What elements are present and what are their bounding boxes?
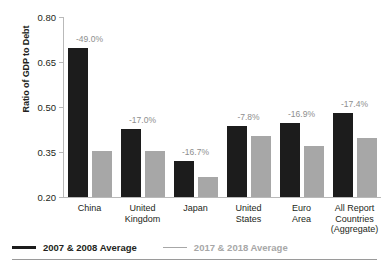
x-axis-line xyxy=(63,197,381,198)
legend-item-curr: 2017 & 2018 Average xyxy=(163,242,288,253)
bar-prev xyxy=(227,126,247,197)
bar-group: -17.4%All ReportCountries(Aggregate) xyxy=(328,17,381,197)
legend-label-curr: 2017 & 2018 Average xyxy=(194,242,288,253)
x-axis-category-label: All ReportCountries(Aggregate) xyxy=(319,203,389,235)
y-tick-label: 0.50 xyxy=(38,102,57,113)
plot-area: 0.200.350.500.650.80 -49.0%China-17.0%Un… xyxy=(63,17,381,197)
bar-curr xyxy=(304,146,324,197)
bar-prev xyxy=(174,161,194,197)
bar-curr xyxy=(251,136,271,197)
bar-prev xyxy=(333,113,353,197)
y-tick-mark xyxy=(59,197,63,198)
bar-group: -16.9%EuroArea xyxy=(275,17,328,197)
legend-swatch-prev xyxy=(12,246,36,249)
bar-pair xyxy=(275,17,328,197)
y-axis-title: Ratio of GDP to Debt xyxy=(21,0,31,139)
delta-label: -16.7% xyxy=(182,147,209,157)
x-axis-category-line: Kingdom xyxy=(107,214,179,225)
x-axis-category-line: All Report xyxy=(319,203,389,214)
delta-label: -17.4% xyxy=(341,99,368,109)
delta-label: -7.8% xyxy=(237,112,259,122)
y-tick-label: 0.65 xyxy=(38,57,57,68)
x-axis-category-line: (Aggregate) xyxy=(319,224,389,235)
bar-curr xyxy=(145,151,165,198)
bar-pair xyxy=(169,17,222,197)
y-tick-label: 0.20 xyxy=(38,192,57,203)
legend: 2007 & 2008 Average 2017 & 2018 Average xyxy=(12,242,288,253)
bar-curr xyxy=(357,138,377,197)
bar-group: -49.0%China xyxy=(63,17,116,197)
bar-group: -17.0%UnitedKingdom xyxy=(116,17,169,197)
y-tick-label: 0.80 xyxy=(38,12,57,23)
delta-label: -49.0% xyxy=(76,34,103,44)
x-axis-category-line: Countries xyxy=(319,214,389,225)
legend-item-prev: 2007 & 2008 Average xyxy=(12,242,137,253)
footer-divider xyxy=(12,259,377,260)
delta-label: -17.0% xyxy=(129,115,156,125)
bar-group: -7.8%UnitedStates xyxy=(222,17,275,197)
y-tick-label: 0.35 xyxy=(38,147,57,158)
legend-label-prev: 2007 & 2008 Average xyxy=(43,242,137,253)
bar-pair xyxy=(116,17,169,197)
bar-prev xyxy=(121,129,141,197)
bar-prev xyxy=(68,48,88,197)
bar-prev xyxy=(280,123,300,197)
delta-label: -16.9% xyxy=(288,109,315,119)
bar-chart: Ratio of GDP to Debt 0.200.350.500.650.8… xyxy=(0,0,389,265)
bar-curr xyxy=(198,177,218,197)
legend-swatch-curr xyxy=(163,247,187,249)
bar-curr xyxy=(92,151,112,198)
bar-pair xyxy=(63,17,116,197)
bar-pair xyxy=(222,17,275,197)
bar-group: -16.7%Japan xyxy=(169,17,222,197)
